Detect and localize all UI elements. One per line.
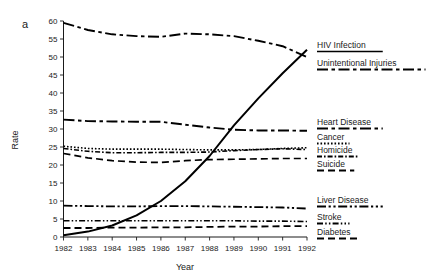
legend-label-hiv-infection: HIV Infection — [317, 40, 366, 50]
y-tick-label: 60 — [49, 17, 58, 26]
x-tick-label: 1984 — [103, 244, 121, 253]
y-tick-label: 0 — [53, 233, 58, 242]
y-tick-label: 5 — [53, 215, 58, 224]
x-tick-label: 1991 — [274, 244, 292, 253]
chart-figure: a Rate Year 051015202530354045505560 198… — [0, 0, 429, 277]
legend-label-cancer: Cancer — [317, 132, 345, 142]
y-axis-title: Rate — [10, 130, 20, 149]
y-tick-label: 40 — [49, 89, 58, 98]
series-line-stroke — [64, 221, 308, 222]
x-tick-label: 1983 — [79, 244, 97, 253]
y-tick-label: 30 — [49, 125, 58, 134]
x-tick-label: 1985 — [128, 244, 146, 253]
legend-label-liver-disease: Liver Disease — [317, 195, 369, 205]
y-tick-label: 55 — [49, 35, 58, 44]
x-axis-title: Year — [176, 262, 194, 272]
y-tick-label: 20 — [49, 161, 58, 170]
x-tick-label: 1986 — [152, 244, 170, 253]
rate-by-year-line-chart: a Rate Year 051015202530354045505560 198… — [0, 0, 429, 277]
panel-label: a — [22, 18, 29, 30]
x-tick-label: 1987 — [176, 244, 194, 253]
x-tick-label: 1982 — [55, 244, 73, 253]
legend-label-homicide: Homicide — [317, 145, 353, 155]
legend-label-suicide: Suicide — [317, 159, 345, 169]
x-tick-label: 1989 — [225, 244, 243, 253]
y-tick-label: 35 — [49, 107, 58, 116]
y-tick-label: 15 — [49, 179, 58, 188]
y-tick-label: 50 — [49, 53, 58, 62]
legend-label-unintentional-injuries: Unintentional Injuries — [317, 58, 396, 68]
x-tick-label: 1992 — [298, 244, 316, 253]
legend-label-diabetes: Diabetes — [317, 227, 351, 237]
legend-label-stroke: Stroke — [317, 212, 342, 222]
y-tick-label: 10 — [49, 197, 58, 206]
y-tick-label: 45 — [49, 71, 58, 80]
legend-label-heart-disease: Heart Disease — [317, 117, 371, 127]
x-tick-label: 1988 — [201, 244, 219, 253]
x-tick-label: 1990 — [249, 244, 267, 253]
y-tick-label: 25 — [49, 143, 58, 152]
